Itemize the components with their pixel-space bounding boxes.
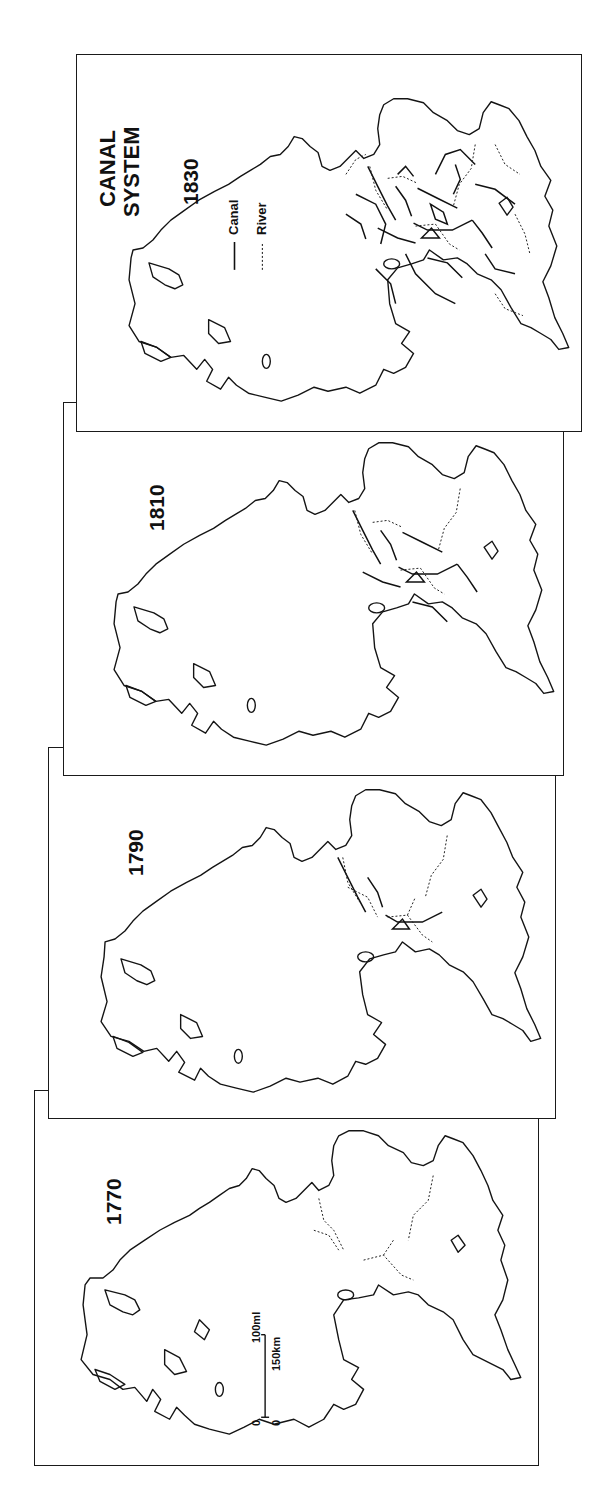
scale-zero-km: 0 bbox=[271, 1420, 282, 1426]
map-panel-1830: CANAL SYSTEM 1830 Canal River bbox=[76, 54, 582, 432]
map-1810 bbox=[64, 403, 563, 775]
map-panel-1770: 1770 0 0 100ml 150km bbox=[34, 1090, 539, 1466]
map-1790 bbox=[49, 748, 555, 1118]
panel-year-1770: 1770 bbox=[103, 1178, 124, 1225]
canals-1790 bbox=[338, 857, 442, 929]
scale-bar bbox=[261, 1335, 269, 1418]
map-panel-1790: 1790 bbox=[48, 747, 556, 1119]
panel-year-1830: 1830 bbox=[180, 158, 201, 205]
figure-title-line2: SYSTEM bbox=[121, 127, 143, 217]
rivers-1770 bbox=[314, 1176, 433, 1280]
coastline bbox=[101, 790, 541, 1092]
legend-canal-label: Canal bbox=[227, 200, 240, 235]
scale-zero-mi: 0 bbox=[251, 1420, 262, 1426]
map-1770 bbox=[35, 1091, 538, 1465]
coastline bbox=[114, 443, 554, 745]
legend bbox=[235, 242, 263, 270]
map-1830 bbox=[77, 55, 581, 431]
map-panel-1810: 1810 bbox=[63, 402, 564, 776]
canals-1830 bbox=[346, 149, 515, 303]
figure-title-line1: CANAL bbox=[97, 130, 119, 207]
rivers-1810 bbox=[355, 489, 460, 594]
panel-year-1810: 1810 bbox=[146, 484, 167, 531]
panel-year-1790: 1790 bbox=[125, 829, 146, 876]
coastline bbox=[81, 1131, 521, 1434]
canals-1810 bbox=[353, 510, 477, 621]
scale-miles-label: 100ml bbox=[251, 1312, 262, 1343]
coastline bbox=[129, 99, 569, 401]
legend-river-label: River bbox=[255, 202, 268, 235]
scale-km-label: 150km bbox=[271, 1337, 282, 1371]
